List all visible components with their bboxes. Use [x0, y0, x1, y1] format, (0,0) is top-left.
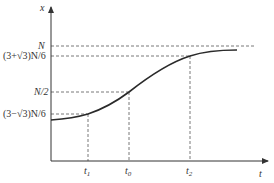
logistic-curve-diagram: x t N (3+√3)N/6 N/2 (3−√3)N/6 t1 t0 t2 — [0, 0, 274, 183]
x-axis-label: t — [259, 168, 262, 179]
y-label-lower: (3−√3)N/6 — [3, 108, 46, 120]
x-label-t1: t1 — [84, 165, 90, 178]
y-label-upper: (3+√3)N/6 — [3, 50, 46, 62]
y-label-half: N/2 — [33, 86, 48, 97]
x-label-t2: t2 — [186, 165, 193, 178]
x-label-t0: t0 — [125, 165, 132, 178]
horizontal-guide-lines — [51, 46, 255, 114]
y-axis-label: x — [39, 2, 45, 13]
logistic-curve — [51, 50, 237, 120]
